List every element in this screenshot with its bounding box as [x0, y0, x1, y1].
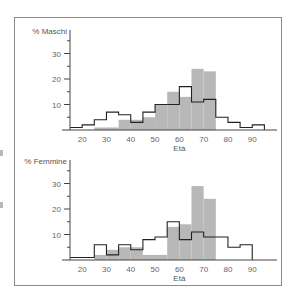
histogram-bar: [192, 186, 204, 260]
outline-step-series: [70, 222, 252, 260]
x-axis-label: Età: [173, 144, 186, 153]
x-tick-label: 90: [248, 135, 257, 144]
histogram-bar: [119, 247, 131, 260]
x-tick-label: 80: [223, 135, 232, 144]
x-tick-label: 80: [223, 265, 232, 274]
histogram-bar: [131, 247, 143, 260]
x-tick-label: 50: [151, 265, 160, 274]
y-tick-label: 30: [52, 50, 61, 59]
y-tick-label: 30: [52, 180, 61, 189]
histogram-bar: [179, 224, 191, 260]
histogram-bar: [204, 71, 216, 130]
y-tick-label: 10: [52, 101, 61, 110]
histogram-bar: [167, 92, 179, 130]
x-tick-label: 70: [199, 135, 208, 144]
y-axis-label: % Femmine: [24, 157, 67, 166]
chart-femmine: 1020302030405060708090% FemmineEtà: [24, 157, 277, 283]
y-tick-label: 20: [52, 205, 61, 214]
x-tick-label: 30: [102, 135, 111, 144]
histogram-bar: [167, 227, 179, 260]
x-tick-label: 20: [78, 265, 87, 274]
x-tick-label: 60: [175, 135, 184, 144]
histogram-bar: [131, 120, 143, 130]
histogram-bar: [155, 255, 167, 260]
x-tick-label: 60: [175, 265, 184, 274]
x-tick-label: 40: [126, 135, 135, 144]
histogram-bar: [94, 255, 106, 260]
histogram-bar: [204, 199, 216, 260]
histogram-bar: [119, 120, 131, 130]
x-tick-label: 70: [199, 265, 208, 274]
x-tick-label: 20: [78, 135, 87, 144]
x-tick-label: 40: [126, 265, 135, 274]
histogram-bar: [155, 105, 167, 131]
x-tick-label: 50: [151, 135, 160, 144]
y-tick-label: 10: [52, 231, 61, 240]
histogram-figure: 1020302030405060708090% MaschiEtà 102030…: [0, 0, 297, 307]
x-tick-label: 90: [248, 265, 257, 274]
x-axis-label: Età: [173, 274, 186, 283]
histogram-bar: [192, 69, 204, 130]
histogram-bar: [179, 97, 191, 130]
x-tick-label: 30: [102, 265, 111, 274]
histogram-bar: [143, 117, 155, 130]
y-axis-label: % Maschi: [32, 27, 67, 36]
chart-maschi: 1020302030405060708090% MaschiEtà: [32, 27, 277, 153]
histogram-bar: [143, 255, 155, 260]
y-tick-label: 20: [52, 75, 61, 84]
